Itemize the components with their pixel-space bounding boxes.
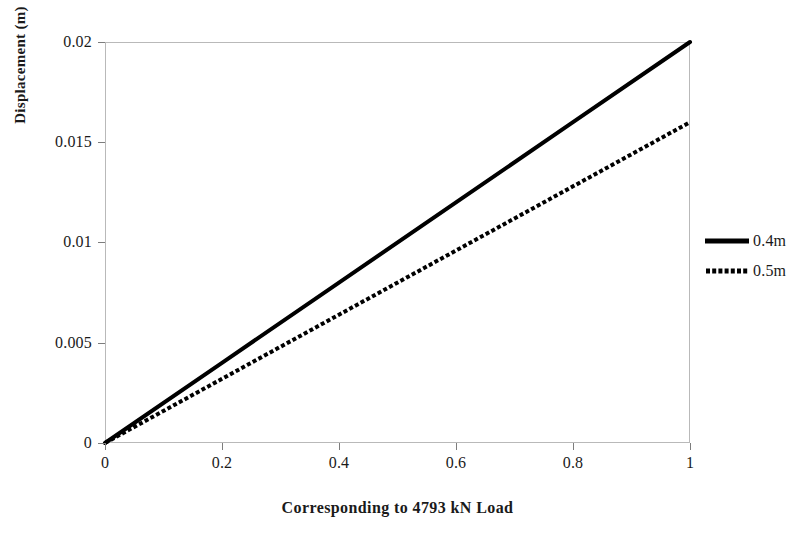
x-axis-title: Corresponding to 4793 kN Load	[105, 498, 690, 518]
legend-item: 0.4m	[704, 226, 786, 256]
x-tick-mark	[105, 443, 106, 450]
x-tick-mark	[456, 443, 457, 450]
legend-label: 0.4m	[753, 233, 786, 249]
y-tick-label: 0.005	[55, 335, 92, 351]
y-tick-mark	[98, 242, 105, 243]
y-tick-label: 0.015	[55, 134, 92, 150]
x-tick-mark	[339, 443, 340, 450]
x-tick-mark	[573, 443, 574, 450]
y-tick-label: 0.02	[63, 34, 92, 50]
x-tick-label: 0	[101, 455, 109, 471]
y-tick-mark	[98, 443, 105, 444]
x-tick-mark	[690, 443, 691, 450]
y-axis-title: Displacement (m)	[9, 0, 31, 170]
line-chart: 0.02 0.015 0.01 0.005 0 0 0.2 0.4 0.6 0.…	[0, 0, 804, 533]
legend-swatch-solid-line-icon	[704, 234, 750, 248]
y-tick-label: 0.01	[63, 234, 92, 250]
x-tick-label: 0.2	[212, 455, 233, 471]
y-tick-mark	[98, 142, 105, 143]
chart-legend: 0.4m 0.5m	[704, 226, 786, 286]
x-tick-label: 0.8	[563, 455, 584, 471]
y-tick-mark	[98, 42, 105, 43]
y-tick-mark	[98, 343, 105, 344]
legend-swatch-dotted-line-icon	[704, 264, 750, 278]
plot-area	[105, 42, 690, 443]
legend-item: 0.5m	[704, 256, 786, 286]
legend-label: 0.5m	[753, 263, 786, 279]
x-tick-label: 1	[686, 455, 694, 471]
x-tick-label: 0.6	[446, 455, 467, 471]
y-tick-label: 0	[84, 435, 92, 451]
x-tick-mark	[222, 443, 223, 450]
x-tick-label: 0.4	[329, 455, 350, 471]
